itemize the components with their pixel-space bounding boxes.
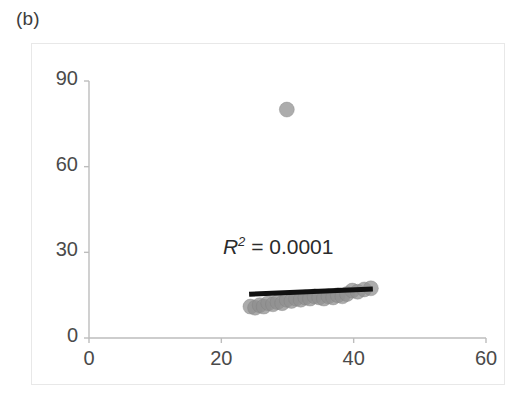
plot-frame: 03060900204060 R2 = 0.0001 xyxy=(31,43,505,385)
data-point xyxy=(279,102,294,117)
scatter-plot-svg xyxy=(32,44,504,384)
y-tick-label: 0 xyxy=(67,324,78,347)
figure-panel: (b) 03060900204060 R2 = 0.0001 xyxy=(0,0,528,405)
y-tick-label: 60 xyxy=(56,153,78,176)
x-tick-label: 40 xyxy=(324,347,384,370)
data-points-group xyxy=(243,102,378,315)
r-symbol: R xyxy=(223,235,238,258)
r-squared-annotation: R2 = 0.0001 xyxy=(223,234,334,259)
y-tick-label: 90 xyxy=(56,67,78,90)
r-squared-value: 0.0001 xyxy=(269,235,333,258)
equals-sign: = xyxy=(245,235,269,258)
y-tick-label: 30 xyxy=(56,238,78,261)
panel-label: (b) xyxy=(16,8,40,30)
x-tick-label: 60 xyxy=(456,347,516,370)
x-tick-label: 20 xyxy=(191,347,251,370)
x-tick-label: 0 xyxy=(59,347,119,370)
